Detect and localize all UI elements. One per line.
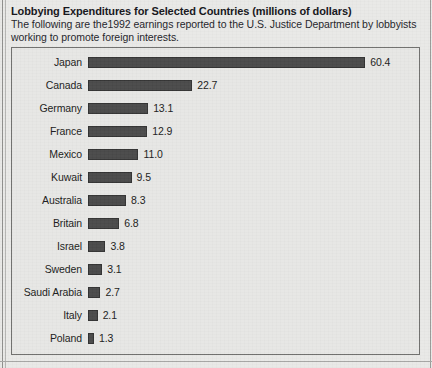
bar-category-label: Poland xyxy=(12,327,82,350)
bar-category-label: Sweden xyxy=(12,258,82,281)
bar-row: Saudi Arabia2.7 xyxy=(12,281,419,304)
bar-value-label: 13.1 xyxy=(153,97,173,120)
page-frame-left-inner-rule xyxy=(5,0,6,368)
bar-value-label: 22.7 xyxy=(197,74,217,97)
page-frame-left-rule xyxy=(2,0,3,368)
page-frame-right-rule xyxy=(430,0,431,368)
bar-row: Germany13.1 xyxy=(12,97,419,120)
bar-category-label: Saudi Arabia xyxy=(12,281,82,304)
chart-subtitle-line-2: working to promote foreign interests. xyxy=(11,31,411,44)
bar-value-label: 9.5 xyxy=(137,166,151,189)
bar-category-label: Britain xyxy=(12,212,82,235)
bar-category-label: France xyxy=(12,120,82,143)
bar xyxy=(88,80,192,91)
bar-value-label: 12.9 xyxy=(152,120,172,143)
bar-value-label: 2.7 xyxy=(105,281,119,304)
bar xyxy=(88,287,100,298)
chart-title: Lobbying Expenditures for Selected Count… xyxy=(11,4,411,18)
bar xyxy=(88,172,132,183)
bar-category-label: Mexico xyxy=(12,143,82,166)
bar-row: Britain6.8 xyxy=(12,212,419,235)
bar-value-label: 60.4 xyxy=(370,51,390,74)
bar xyxy=(88,103,148,114)
bar-value-label: 8.3 xyxy=(131,189,145,212)
bar-row: Australia8.3 xyxy=(12,189,419,212)
bar-row: Italy2.1 xyxy=(12,304,419,327)
bar-category-label: Italy xyxy=(12,304,82,327)
bar-category-label: Israel xyxy=(12,235,82,258)
bar-row: Canada22.7 xyxy=(12,74,419,97)
chart-plot-area: Japan60.4Canada22.7Germany13.1France12.9… xyxy=(11,47,420,355)
bar-category-label: Canada xyxy=(12,74,82,97)
bar xyxy=(88,57,365,68)
bar-row: France12.9 xyxy=(12,120,419,143)
bar-value-label: 1.3 xyxy=(99,327,113,350)
bar xyxy=(88,149,138,160)
bar-category-label: Australia xyxy=(12,189,82,212)
bar-row: Japan60.4 xyxy=(12,51,419,74)
bar-row: Mexico11.0 xyxy=(12,143,419,166)
page-frame-bottom-rule xyxy=(0,361,432,362)
bar xyxy=(88,333,94,344)
bar xyxy=(88,126,147,137)
bar xyxy=(88,218,119,229)
bar xyxy=(88,241,105,252)
bar xyxy=(88,195,126,206)
bar-row: Poland1.3 xyxy=(12,327,419,350)
bar-row: Kuwait9.5 xyxy=(12,166,419,189)
bar-category-label: Japan xyxy=(12,51,82,74)
bar-row: Sweden3.1 xyxy=(12,258,419,281)
bar-value-label: 11.0 xyxy=(143,143,162,166)
chart-header: Lobbying Expenditures for Selected Count… xyxy=(11,4,411,44)
bar-row: Israel3.8 xyxy=(12,235,419,258)
bar-value-label: 3.1 xyxy=(107,258,121,281)
chart-subtitle-line-1: The following are the1992 earnings repor… xyxy=(11,18,411,31)
bar-value-label: 6.8 xyxy=(124,212,138,235)
bar xyxy=(88,310,98,321)
bar-category-label: Germany xyxy=(12,97,82,120)
bar xyxy=(88,264,102,275)
bar-rows-container: Japan60.4Canada22.7Germany13.1France12.9… xyxy=(12,48,419,354)
bar-value-label: 2.1 xyxy=(103,304,117,327)
bar-value-label: 3.8 xyxy=(110,235,124,258)
bar-category-label: Kuwait xyxy=(12,166,82,189)
infographic-page: Lobbying Expenditures for Selected Count… xyxy=(0,0,432,368)
